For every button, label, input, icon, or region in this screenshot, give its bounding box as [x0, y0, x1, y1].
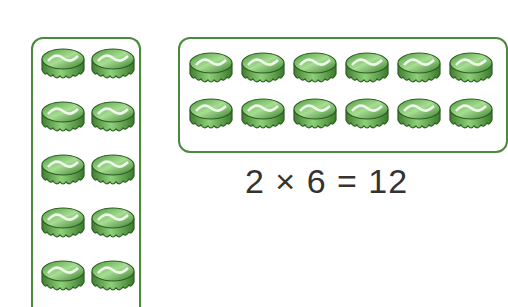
- bottle-cap-icon: [40, 205, 86, 241]
- bottle-cap-icon: [292, 50, 338, 86]
- bottle-cap-icon: [292, 96, 338, 132]
- bottle-cap-icon: [448, 50, 494, 86]
- equation-label: 2 × 6 = 12: [245, 162, 408, 201]
- bottle-cap-icon: [396, 50, 442, 86]
- bottle-cap-icon: [344, 50, 390, 86]
- bottle-cap-icon: [90, 46, 136, 82]
- bottle-cap-icon: [40, 258, 86, 294]
- bottle-cap-icon: [90, 258, 136, 294]
- bottle-cap-icon: [240, 96, 286, 132]
- bottle-cap-icon: [344, 96, 390, 132]
- bottle-cap-icon: [396, 96, 442, 132]
- bottle-cap-icon: [448, 96, 494, 132]
- bottle-cap-icon: [90, 99, 136, 135]
- bottle-cap-icon: [40, 46, 86, 82]
- bottle-cap-icon: [90, 152, 136, 188]
- bottle-cap-icon: [40, 99, 86, 135]
- bottle-cap-icon: [188, 96, 234, 132]
- bottle-cap-icon: [188, 50, 234, 86]
- bottle-cap-icon: [40, 152, 86, 188]
- bottle-cap-icon: [90, 205, 136, 241]
- bottle-cap-icon: [240, 50, 286, 86]
